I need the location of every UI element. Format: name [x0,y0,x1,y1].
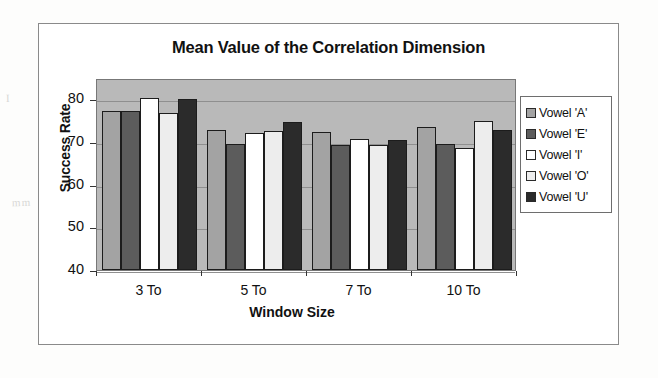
bar-10to-series-3 [474,121,493,270]
y-tick-mark [90,186,96,187]
legend-label-3: Vowel 'O' [539,169,589,183]
y-tick-label: 50 [50,218,84,234]
x-tick-label: 3 To [96,282,201,298]
plot-area [96,79,516,271]
y-tick-label: 40 [50,261,84,277]
x-tick-mark [411,271,412,276]
ghost-text: I [6,92,11,104]
bar-10to-series-1 [436,144,455,270]
bar-5to-series-3 [264,131,283,270]
x-tick-mark [306,271,307,276]
x-tick-mark [96,271,97,276]
bar-7to-series-0 [312,132,331,270]
bar-5to-series-0 [207,130,226,270]
y-tick-mark [90,143,96,144]
legend-item-4: Vowel 'U' [526,186,607,207]
bar-7to-series-2 [350,139,369,270]
bar-group-7-to [307,80,412,270]
legend-swatch-vowel-o [526,171,536,181]
legend-item-3: Vowel 'O' [526,165,607,186]
y-tick-mark [90,100,96,101]
figure-frame: Mean Value of the Correlation Dimension … [38,23,619,345]
bar-group-5-to [202,80,307,270]
x-tick-mark [201,271,202,276]
bar-5to-series-2 [245,133,264,270]
legend-swatch-vowel-e [526,129,536,139]
legend-item-1: Vowel 'E' [526,123,607,144]
legend-swatch-vowel-u [526,192,536,202]
scanned-page-background: Mean Value of the Correlation Dimension … [0,0,658,378]
x-tick-label: 10 To [411,282,516,298]
chart-title: Mean Value of the Correlation Dimension [39,38,618,57]
bar-7to-series-1 [331,145,350,270]
bar-3to-series-0 [102,111,121,270]
bar-group-3-to [97,80,202,270]
legend-label-2: Vowel 'I' [539,148,582,162]
bar-5to-series-1 [226,144,245,270]
bar-5to-series-4 [283,122,302,270]
chart-legend: Vowel 'A'Vowel 'E'Vowel 'I'Vowel 'O'Vowe… [520,96,612,213]
bar-3to-series-2 [140,98,159,270]
bar-3to-series-4 [178,99,197,270]
bar-group-10-to [412,80,517,270]
ghost-text: mm [12,196,31,208]
legend-swatch-vowel-a [526,108,536,118]
y-tick-mark [90,228,96,229]
x-tick-label: 5 To [201,282,306,298]
legend-label-0: Vowel 'A' [539,106,587,120]
bar-3to-series-3 [159,113,178,270]
legend-label-4: Vowel 'U' [539,190,588,204]
x-axis-title: Window Size [57,304,527,320]
x-tick-mark [516,271,517,276]
legend-item-2: Vowel 'I' [526,144,607,165]
bar-7to-series-3 [369,145,388,270]
legend-item-0: Vowel 'A' [526,102,607,123]
y-tick-label: 70 [50,133,84,149]
y-tick-label: 60 [50,176,84,192]
y-tick-label: 80 [50,90,84,106]
x-tick-label: 7 To [306,282,411,298]
bar-10to-series-4 [493,130,512,270]
bar-10to-series-2 [455,148,474,270]
bar-10to-series-0 [417,127,436,270]
legend-label-1: Vowel 'E' [539,127,587,141]
bar-7to-series-4 [388,140,407,270]
ghost-text [48,356,52,368]
legend-swatch-vowel-i [526,150,536,160]
bar-3to-series-1 [121,111,140,270]
